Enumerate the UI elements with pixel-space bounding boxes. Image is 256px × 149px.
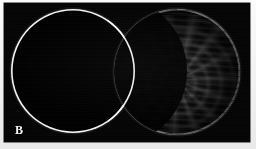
- panel-label: B: [15, 124, 23, 136]
- photographic-plate: B: [4, 3, 250, 142]
- fringed-aperture-disc: [114, 9, 240, 135]
- fringe-intensity-envelope: [114, 9, 240, 135]
- concentric-fringes: [122, 19, 240, 135]
- carrier-fringes: [114, 9, 240, 135]
- figure-root: B: [0, 0, 256, 149]
- spiral-dislocation-fringes: [118, 15, 240, 135]
